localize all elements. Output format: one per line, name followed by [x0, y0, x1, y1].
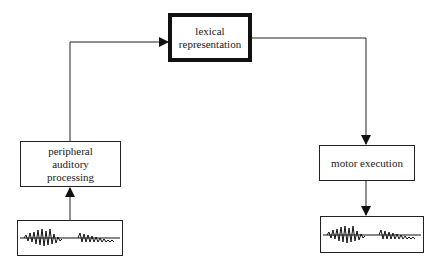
waveform-icon: [18, 221, 122, 255]
motor-execution-label: motor execution: [331, 157, 403, 170]
motor-execution-box: motor execution: [319, 145, 415, 181]
peripheral-auditory-processing-box: peripheral auditory processing: [20, 141, 121, 187]
lexical-representation-label: lexical representation: [179, 25, 241, 51]
waveform-icon: [321, 217, 423, 252]
arrow-peripheral-to-lexical: [70, 42, 168, 141]
output-speech-waveform: [320, 216, 424, 253]
input-speech-waveform: [17, 220, 123, 256]
lexical-representation-box: lexical representation: [168, 13, 252, 62]
peripheral-auditory-processing-label: peripheral auditory processing: [47, 145, 94, 184]
arrow-lexical-to-motor: [251, 38, 366, 144]
